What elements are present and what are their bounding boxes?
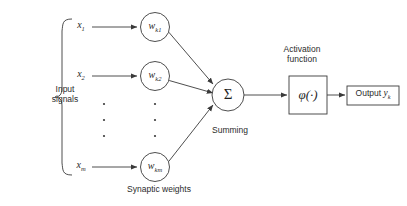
- ellipsis-dots: [103, 103, 156, 137]
- synaptic-weights-caption: Synaptic weights: [127, 184, 191, 194]
- sigma-symbol: Σ: [224, 86, 233, 103]
- activation-caption-line2: function: [287, 54, 317, 64]
- weight-label-wkm: wkm: [148, 160, 162, 173]
- input-label-x2: x2: [77, 68, 85, 81]
- neuron-model-diagram: Input signals x1 x2 xm wk1 wk2 wkm Synap…: [0, 0, 407, 206]
- summing-caption: Summing: [212, 125, 248, 135]
- input-signals-label-line1: Input: [56, 84, 75, 94]
- weight-label-wk2: wk2: [149, 69, 162, 82]
- output-text: Output: [356, 88, 382, 98]
- input-label-xm: xm: [76, 159, 85, 172]
- weight-to-sum-connections: [169, 32, 213, 161]
- weight-label-wk1: wk1: [149, 20, 162, 33]
- input-signals-label: Input signals: [41, 84, 89, 104]
- input-signals-label-line2: signals: [52, 94, 78, 104]
- output-label: Output yk: [356, 88, 391, 102]
- input-connections: [92, 27, 137, 167]
- weight-nodes: [141, 13, 170, 182]
- activation-function-symbol: φ(·): [298, 87, 317, 103]
- input-label-x1: x1: [77, 19, 85, 32]
- activation-caption-line1: Activation: [284, 44, 321, 54]
- output-symbol: yk: [381, 88, 390, 98]
- activation-function-caption: Activation function: [270, 44, 334, 64]
